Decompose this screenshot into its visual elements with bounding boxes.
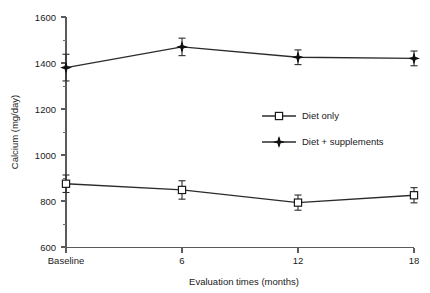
data-point <box>294 199 301 206</box>
data-point <box>62 63 70 71</box>
data-point <box>178 43 186 51</box>
x-tick-label-12: 12 <box>293 255 304 266</box>
data-point <box>294 53 302 61</box>
data-point <box>410 192 417 199</box>
x-tick-label-6: 6 <box>179 255 184 266</box>
legend-item-diet-supplements: Diet + supplements <box>262 136 384 147</box>
legend-label: Diet + supplements <box>302 136 384 147</box>
x-tick-labels: Baseline 6 12 18 <box>48 255 420 266</box>
series-diet-supplements <box>62 38 418 81</box>
data-point <box>62 180 69 187</box>
x-major-ticks <box>66 248 414 254</box>
y-tick-label-1200: 1200 <box>35 104 56 115</box>
series-diet-only <box>62 175 417 210</box>
series-line <box>66 47 414 68</box>
legend-marker <box>275 138 283 146</box>
y-tick-label-1000: 1000 <box>35 150 56 161</box>
series-layer <box>62 38 418 210</box>
data-point <box>178 186 185 193</box>
y-tick-label-600: 600 <box>40 242 56 253</box>
calcium-line-chart: 1600 1400 1200 1000 800 600 Baseline 6 1… <box>0 0 430 293</box>
y-tick-label-1400: 1400 <box>35 58 56 69</box>
y-tick-labels: 1600 1400 1200 1000 800 600 <box>35 12 56 253</box>
legend-label: Diet only <box>302 110 339 121</box>
legend-item-diet-only: Diet only <box>262 110 339 121</box>
data-point <box>410 54 418 62</box>
x-tick-label-baseline: Baseline <box>48 255 84 266</box>
y-tick-label-800: 800 <box>40 196 56 207</box>
y-tick-label-1600: 1600 <box>35 12 56 23</box>
axes-group <box>66 17 414 248</box>
series-line <box>66 184 414 203</box>
x-axis-title: Evaluation times (months) <box>189 276 299 287</box>
y-axis-title: Calcium (mg/day) <box>9 95 20 169</box>
chart-legend: Diet onlyDiet + supplements <box>262 110 384 147</box>
chart-figure: 1600 1400 1200 1000 800 600 Baseline 6 1… <box>0 0 430 293</box>
legend-marker <box>275 112 282 119</box>
x-tick-label-18: 18 <box>409 255 420 266</box>
